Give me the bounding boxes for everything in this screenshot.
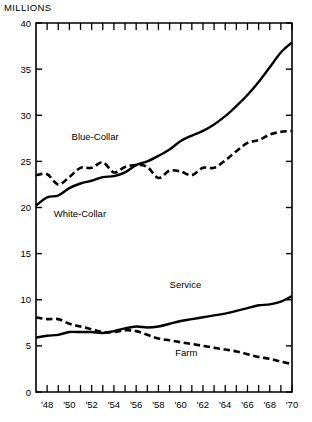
x-axis-tick-label: '60 — [175, 399, 187, 410]
x-axis-tick-label: '70 — [286, 399, 298, 410]
y-axis-tick-label: 5 — [26, 340, 31, 351]
x-axis-tick-label: '64 — [219, 399, 231, 410]
x-axis-tick-label: '68 — [264, 399, 276, 410]
annotation-label-service: Service — [170, 279, 202, 290]
annotation-label-white-collar: White-Collar — [54, 208, 106, 219]
x-axis-tick-label: '66 — [241, 399, 253, 410]
x-axis-tick-label: '56 — [130, 399, 142, 410]
annotation-label-blue-collar: Blue-Collar — [72, 131, 119, 142]
y-axis-tick-label: 0 — [26, 387, 31, 398]
y-axis-tick-label: 20 — [20, 202, 31, 213]
x-axis-tick-label: '62 — [197, 399, 209, 410]
y-axis-tick-label: 30 — [20, 110, 31, 121]
series-paths — [36, 42, 292, 364]
x-axis-tick-label: '48 — [41, 399, 53, 410]
employment-line-chart: MILLIONS 0510152025303540 '48'50'52'54'5… — [0, 0, 312, 422]
y-axis-tick-label: 25 — [20, 156, 31, 167]
x-axis-tick-label: '58 — [152, 399, 164, 410]
x-axis-tick-label: '52 — [85, 399, 97, 410]
y-axis-tick-label: 35 — [20, 64, 31, 75]
x-axis-tick-label: '54 — [108, 399, 120, 410]
series-line-white-collar — [36, 42, 292, 205]
y-axis-title: MILLIONS — [4, 2, 52, 13]
annotation-label-farm: Farm — [175, 347, 197, 358]
y-axis-tick-label: 15 — [20, 248, 31, 259]
series-line-service — [36, 296, 292, 338]
series-annotations: Blue-CollarWhite-CollarServiceFarm — [54, 131, 201, 358]
y-axis-tick-label: 10 — [20, 294, 31, 305]
y-axis-tick-label: 40 — [20, 18, 31, 29]
x-axis-tick-label: '50 — [63, 399, 75, 410]
chart-canvas: MILLIONS 0510152025303540 '48'50'52'54'5… — [0, 0, 312, 422]
